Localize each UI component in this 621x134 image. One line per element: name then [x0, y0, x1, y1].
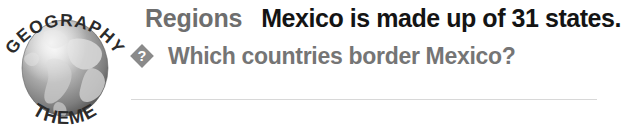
geography-theme-logo: GEOGRAPHY THEME — [2, 2, 128, 134]
callout-text-column: Regions Mexico is made up of 31 states. … — [128, 0, 602, 134]
theme-label: Regions — [145, 4, 242, 33]
question-row: ? Which countries border Mexico? — [128, 40, 602, 72]
headline-statement: Mexico is made up of 31 states. — [261, 4, 621, 33]
svg-text:?: ? — [138, 48, 147, 64]
globe-icon: GEOGRAPHY THEME — [2, 2, 128, 134]
question-text: Which countries border Mexico? — [168, 43, 516, 70]
headline-row: Regions Mexico is made up of 31 states. — [145, 4, 605, 36]
diamond-question-mark-icon: ? — [128, 42, 156, 70]
section-divider — [131, 99, 597, 100]
